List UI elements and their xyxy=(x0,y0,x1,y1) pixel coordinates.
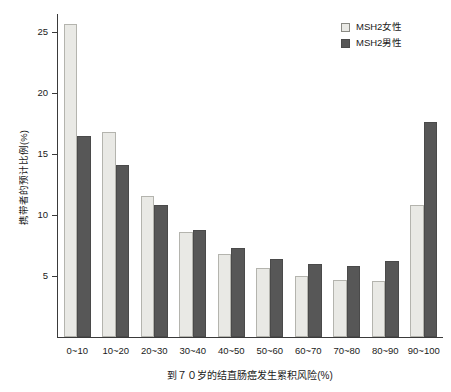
x-tick-label: 40~50 xyxy=(212,345,251,356)
y-tick-label: 5 xyxy=(8,271,48,281)
legend-item[interactable]: MSH2女性 xyxy=(341,20,402,34)
plot-area xyxy=(58,14,443,337)
bar-female[interactable] xyxy=(295,276,309,337)
bar-group xyxy=(328,14,367,337)
bar-group xyxy=(212,14,251,337)
x-tick-label: 10~20 xyxy=(97,345,136,356)
bar-male[interactable] xyxy=(270,259,284,337)
bar-group xyxy=(58,14,97,337)
x-tick-label: 30~40 xyxy=(174,345,213,356)
bar-female[interactable] xyxy=(256,268,270,337)
x-tick-label: 20~30 xyxy=(135,345,174,356)
bar-male[interactable] xyxy=(308,264,322,337)
x-tick-label: 70~80 xyxy=(328,345,367,356)
bar-male[interactable] xyxy=(193,230,207,337)
x-axis-title: 到７０岁的结直肠癌发生累积风险(%) xyxy=(57,370,443,382)
bar-female[interactable] xyxy=(141,196,155,337)
bar-group xyxy=(251,14,290,337)
x-tick-label: 90~100 xyxy=(405,345,444,356)
bar-group xyxy=(135,14,174,337)
legend-label: MSH2女性 xyxy=(356,22,402,32)
bar-group xyxy=(174,14,213,337)
bar-group xyxy=(289,14,328,337)
bar-female[interactable] xyxy=(179,232,193,337)
legend-label: MSH2男性 xyxy=(356,38,402,48)
bar-male[interactable] xyxy=(116,165,130,337)
bar-female[interactable] xyxy=(333,280,347,337)
bar-chart: 510152025 携带者的预计比例(%) 到７０岁的结直肠癌发生累积风险(%)… xyxy=(0,0,451,392)
x-tick-label: 50~60 xyxy=(251,345,290,356)
x-axis-line xyxy=(57,337,443,338)
bar-group xyxy=(366,14,405,337)
bar-male[interactable] xyxy=(154,205,168,337)
bar-male[interactable] xyxy=(347,266,361,337)
x-tick-label: 80~90 xyxy=(366,345,405,356)
bar-male[interactable] xyxy=(77,136,91,337)
bar-female[interactable] xyxy=(372,281,386,337)
bar-male[interactable] xyxy=(424,122,438,337)
x-tick-label: 60~70 xyxy=(289,345,328,356)
chart-legend: MSH2女性MSH2男性 xyxy=(341,20,402,52)
bar-female[interactable] xyxy=(64,24,78,337)
bar-male[interactable] xyxy=(385,261,399,337)
bar-female[interactable] xyxy=(410,205,424,337)
bar-group xyxy=(405,14,444,337)
x-tick-label: 0~10 xyxy=(58,345,97,356)
legend-swatch-male-icon xyxy=(341,39,350,48)
bar-female[interactable] xyxy=(218,254,232,337)
legend-item[interactable]: MSH2男性 xyxy=(341,36,402,50)
y-tick-label: 25 xyxy=(8,27,48,37)
bar-female[interactable] xyxy=(102,132,116,337)
bar-male[interactable] xyxy=(231,248,245,337)
bar-group xyxy=(97,14,136,337)
y-axis-title: 携带者的预计比例(%) xyxy=(18,88,29,268)
legend-swatch-female-icon xyxy=(341,23,350,32)
